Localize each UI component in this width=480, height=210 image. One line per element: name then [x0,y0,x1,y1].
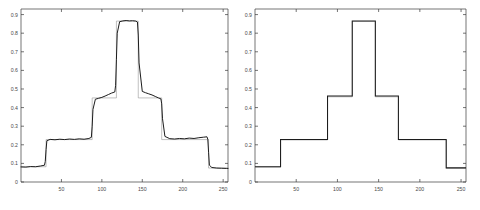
y-tick-label: 0.7 [245,49,252,55]
clean-signal-panel: 00.10.20.30.40.50.60.70.80.9 50100150200… [240,0,480,210]
noisy-signal-panel: 00.10.20.30.40.50.60.70.80.9 50100150200… [0,0,240,210]
y-tick-label: 0.4 [11,105,18,111]
y-tick-label: 0.9 [245,12,252,18]
y-tick-label: 0.2 [245,142,252,148]
y-tick-label: 0.1 [245,160,252,166]
x-tick-label: 200 [416,186,425,192]
y-tick-label: 0.5 [245,86,252,92]
y-tick-label: 0.5 [11,86,18,92]
x-tick-label: 100 [98,186,107,192]
two-panel-figure: 00.10.20.30.40.50.60.70.80.9 50100150200… [0,0,480,210]
y-tick-label: 0.1 [11,160,18,166]
y-tick-label: 0.8 [245,30,252,36]
y-tick-label: 0.3 [11,123,18,129]
left-plot-canvas: 00.10.20.30.40.50.60.70.80.9 50100150200… [0,0,240,210]
y-tick-label: 0.4 [245,105,252,111]
y-tick-label: 0 [249,179,252,185]
y-tick-label: 0.9 [11,12,18,18]
x-tick-label: 150 [374,186,383,192]
x-tick-label: 250 [219,186,228,192]
x-tick-label: 50 [59,186,65,192]
y-tick-label: 0.6 [245,67,252,73]
x-tick-label: 250 [457,186,466,192]
x-tick-label: 50 [293,186,299,192]
y-tick-label: 0.7 [11,49,18,55]
y-tick-label: 0.6 [11,67,18,73]
y-tick-label: 0.3 [245,123,252,129]
left-plot-background [21,9,228,182]
y-tick-label: 0.2 [11,142,18,148]
right-plot-background [255,9,466,182]
x-tick-label: 200 [178,186,187,192]
right-plot-canvas: 00.10.20.30.40.50.60.70.80.9 50100150200… [240,0,480,210]
y-tick-label: 0.8 [11,30,18,36]
y-tick-label: 0 [15,179,18,185]
x-tick-label: 150 [138,186,147,192]
x-tick-label: 100 [333,186,342,192]
